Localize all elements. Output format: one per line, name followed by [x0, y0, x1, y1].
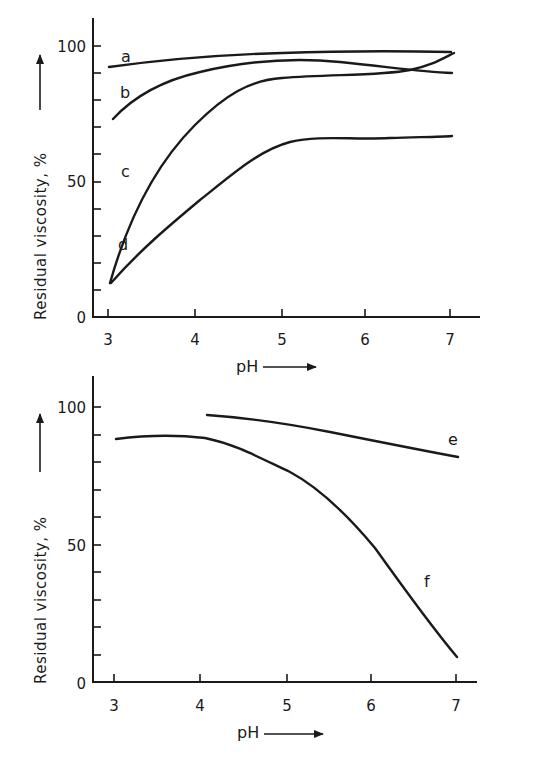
bottom-x-tick-6: 6 [366, 697, 376, 715]
bottom-y-axis-title: Residual viscosity, % [32, 517, 50, 684]
top-y-axis-title: Residual viscosity, % [32, 153, 50, 320]
bottom-x-axis-title: pH [237, 723, 259, 742]
curve-f [116, 436, 457, 657]
curve-d [111, 136, 452, 283]
top-x-tick-5: 5 [277, 331, 287, 349]
label-c: c [121, 162, 130, 181]
bottom-x-tick-7: 7 [451, 697, 461, 715]
curve-a [109, 51, 451, 67]
bottom-y-tick-100: 100 [57, 399, 86, 417]
top-x-ticks [108, 309, 450, 317]
bottom-chart: 100 50 0 3 4 5 6 7 Residual viscosity, %… [32, 376, 477, 742]
top-y-tick-0: 0 [76, 309, 86, 327]
top-chart: 100 50 0 3 4 5 6 7 Residual viscosity, %… [32, 18, 480, 376]
bottom-x-ticks [114, 674, 456, 682]
curve-b [113, 60, 452, 119]
bottom-x-tick-5: 5 [282, 697, 292, 715]
top-x-tick-7: 7 [445, 331, 455, 349]
top-y-tick-50: 50 [67, 173, 86, 191]
top-x-tick-3: 3 [103, 331, 113, 349]
bottom-x-tick-4: 4 [195, 697, 205, 715]
top-y-ticks [93, 46, 101, 290]
label-d: d [118, 235, 128, 254]
curve-c [110, 53, 454, 283]
label-a: a [121, 47, 131, 66]
figure-canvas: 100 50 0 3 4 5 6 7 Residual viscosity, %… [0, 0, 545, 762]
top-x-axis-title: pH [236, 357, 258, 376]
top-x-tick-6: 6 [360, 331, 370, 349]
top-x-tick-4: 4 [190, 331, 200, 349]
label-f: f [424, 572, 430, 591]
label-b: b [120, 83, 130, 102]
bottom-y-tick-50: 50 [67, 537, 86, 555]
top-y-tick-100: 100 [57, 38, 86, 56]
bottom-y-ticks [93, 407, 101, 655]
label-e: e [448, 430, 458, 449]
bottom-x-tick-3: 3 [109, 697, 119, 715]
bottom-y-tick-0: 0 [76, 675, 86, 693]
